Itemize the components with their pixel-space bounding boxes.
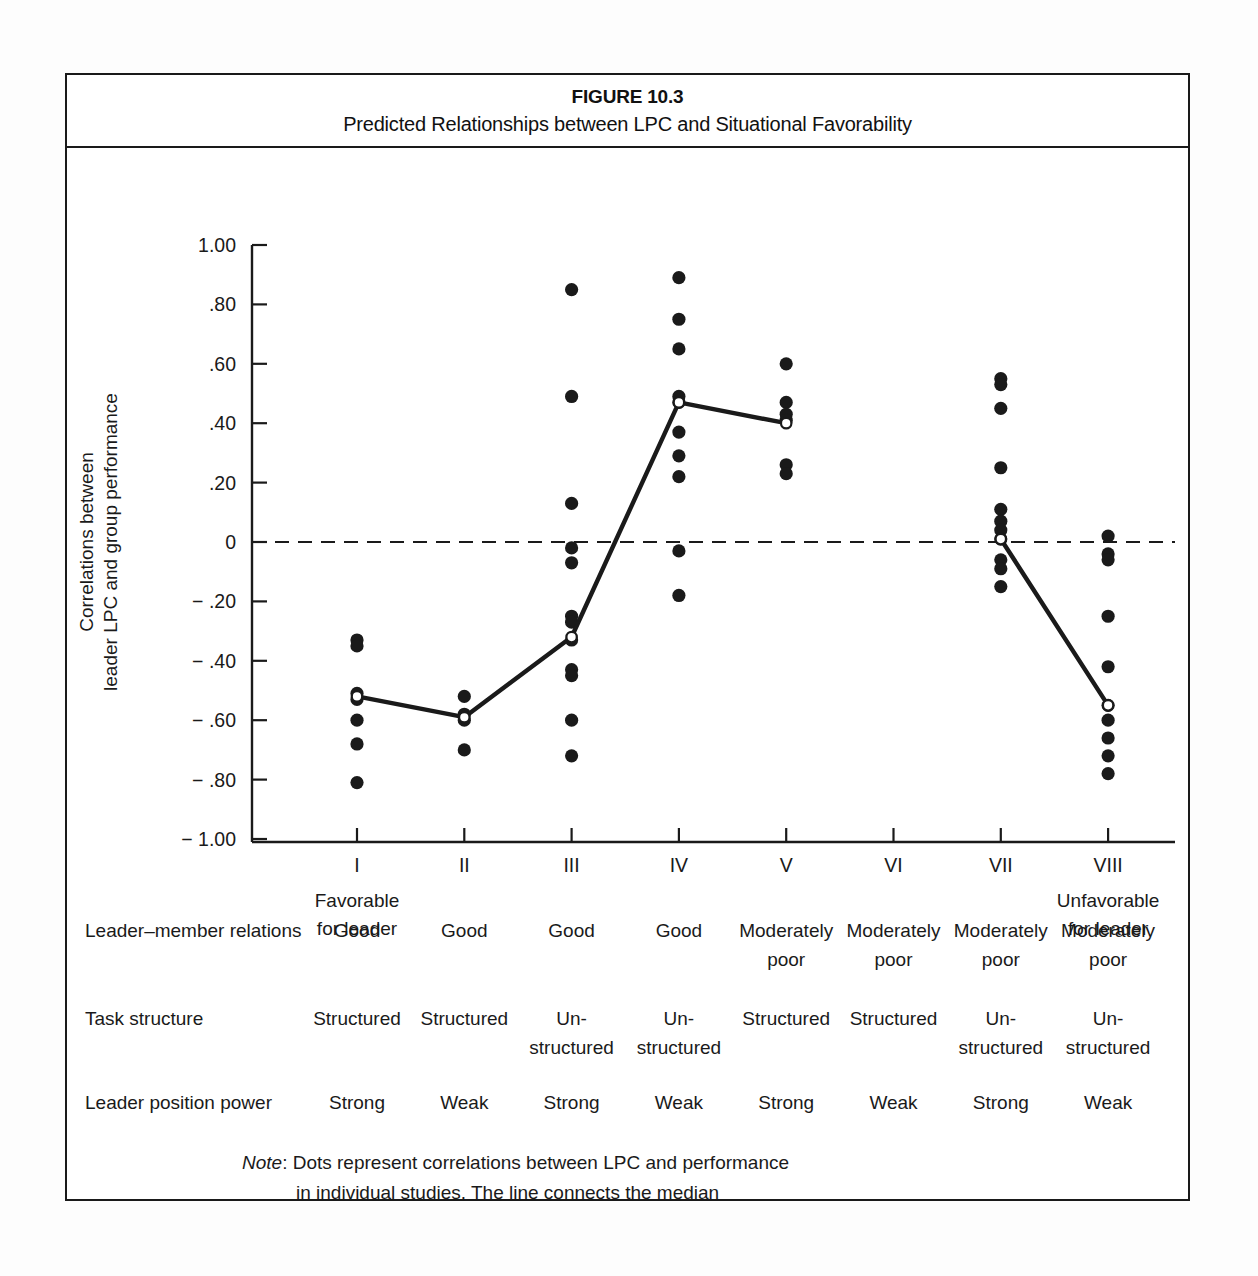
table-cell: structured: [637, 1037, 721, 1058]
chart-svg: 1.00.80.60.40.200− .20− .40− .60− .80− 1…: [67, 148, 1188, 1199]
data-point-dot: [1102, 610, 1115, 623]
table-row-label: Task structure: [85, 1008, 203, 1029]
y-axis-tick-label: 1.00: [198, 234, 236, 256]
table-cell: Weak: [869, 1092, 918, 1113]
x-axis-left-caption-line1: Favorable: [315, 890, 400, 911]
table-cell: Strong: [973, 1092, 1029, 1113]
y-axis-tick-label: .40: [209, 412, 236, 434]
data-point-dot: [780, 357, 793, 370]
data-point-dot: [994, 580, 1007, 593]
table-cell: poor: [1089, 949, 1128, 970]
data-point-dot: [350, 639, 363, 652]
y-axis-tick-label: .80: [209, 293, 236, 315]
table-cell: Good: [334, 920, 380, 941]
figure-header: FIGURE 10.3 Predicted Relationships betw…: [67, 75, 1188, 148]
table-cell: poor: [767, 949, 806, 970]
table-cell: Weak: [655, 1092, 704, 1113]
data-point-dot: [672, 544, 685, 557]
data-point-dot: [1102, 767, 1115, 780]
table-cell: structured: [1066, 1037, 1150, 1058]
chart-plot-area: 1.00.80.60.40.200− .20− .40− .60− .80− 1…: [67, 148, 1188, 1199]
data-point-dot: [565, 669, 578, 682]
data-point-dot: [994, 378, 1007, 391]
table-row-label: Leader position power: [85, 1092, 273, 1113]
table-cell: structured: [959, 1037, 1043, 1058]
data-point-dot: [565, 556, 578, 569]
x-axis-right-caption-line1: Unfavorable: [1057, 890, 1159, 911]
data-point-dot: [458, 690, 471, 703]
data-point-dot: [565, 390, 578, 403]
y-axis-title-line1: Correlations between: [76, 452, 97, 632]
figure-frame: FIGURE 10.3 Predicted Relationships betw…: [65, 73, 1190, 1201]
data-point-dot: [780, 467, 793, 480]
median-marker: [566, 632, 576, 642]
y-axis-title-line2: leader LPC and group performance: [100, 393, 121, 691]
data-point-dot: [672, 589, 685, 602]
data-point-dot: [350, 737, 363, 750]
median-marker: [674, 397, 684, 407]
table-cell: Weak: [440, 1092, 489, 1113]
note-line-1: Note: Dots represent correlations betwee…: [242, 1152, 789, 1173]
y-axis-tick-label: 0: [225, 531, 236, 553]
table-cell: Moderately: [954, 920, 1048, 941]
data-point-dot: [994, 503, 1007, 516]
data-point-dot: [672, 449, 685, 462]
data-point-dot: [565, 714, 578, 727]
data-point-dot: [1102, 749, 1115, 762]
table-cell: Strong: [758, 1092, 814, 1113]
data-point-dot: [672, 271, 685, 284]
median-marker: [1103, 700, 1113, 710]
y-axis-tick-label: − 1.00: [181, 828, 236, 850]
table-cell: Weak: [1084, 1092, 1133, 1113]
median-marker: [996, 534, 1006, 544]
data-point-dot: [672, 426, 685, 439]
data-point-dot: [350, 776, 363, 789]
table-cell: Moderately: [739, 920, 833, 941]
figure-title: Predicted Relationships between LPC and …: [67, 113, 1188, 136]
x-axis-tick-label: VI: [884, 854, 902, 876]
table-cell: Structured: [420, 1008, 508, 1029]
data-point-dot: [780, 396, 793, 409]
table-cell: Un-: [664, 1008, 695, 1029]
data-point-dot: [672, 342, 685, 355]
data-point-dot: [565, 541, 578, 554]
y-axis-tick-label: − .40: [192, 650, 236, 672]
table-cell: structured: [529, 1037, 613, 1058]
data-point-dot: [350, 714, 363, 727]
table-cell: Strong: [544, 1092, 600, 1113]
x-axis-tick-label: V: [780, 854, 793, 876]
x-axis-tick-label: IV: [670, 854, 688, 876]
data-point-dot: [565, 497, 578, 510]
note-prefix: Note: [242, 1152, 282, 1173]
y-axis-tick-label: − .20: [192, 590, 236, 612]
table-cell: Good: [656, 920, 702, 941]
data-point-dot: [1102, 731, 1115, 744]
table-cell: poor: [982, 949, 1021, 970]
table-cell: Strong: [329, 1092, 385, 1113]
data-point-dot: [1102, 714, 1115, 727]
median-marker: [781, 418, 791, 428]
data-point-dot: [1102, 529, 1115, 542]
table-cell: Moderately: [847, 920, 941, 941]
data-point-dot: [672, 313, 685, 326]
note-line-2: in individual studies. The line connects…: [296, 1182, 719, 1199]
y-axis-tick-label: − .60: [192, 709, 236, 731]
data-point-dot: [994, 461, 1007, 474]
data-point-dot: [994, 402, 1007, 415]
figure-number: FIGURE 10.3: [67, 86, 1188, 108]
x-axis-tick-label: II: [459, 854, 470, 876]
x-axis-tick-label: III: [563, 854, 579, 876]
table-cell: Un-: [556, 1008, 587, 1029]
table-cell: Structured: [742, 1008, 830, 1029]
table-cell: Structured: [850, 1008, 938, 1029]
page-canvas: FIGURE 10.3 Predicted Relationships betw…: [0, 0, 1258, 1276]
table-cell: Un-: [1093, 1008, 1124, 1029]
data-point-dot: [672, 470, 685, 483]
y-axis-tick-label: − .80: [192, 769, 236, 791]
median-marker: [459, 712, 469, 722]
table-cell: Un-: [985, 1008, 1016, 1029]
data-point-dot: [565, 749, 578, 762]
table-cell: Moderately: [1061, 920, 1155, 941]
y-axis-tick-label: .20: [209, 472, 236, 494]
table-cell: Structured: [313, 1008, 401, 1029]
